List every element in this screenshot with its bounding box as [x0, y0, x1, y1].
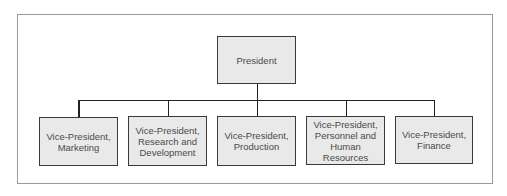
org-node-vp-personnel: Vice-President, Personnel and Human Reso…	[306, 116, 385, 165]
connector-vp-finance	[434, 100, 436, 117]
connector-horizontal-bus	[78, 100, 435, 102]
connector-vp-marketing	[78, 100, 80, 118]
org-node-vp-production: Vice-President, Production	[217, 116, 296, 166]
org-node-vp-finance: Vice-President, Finance	[395, 116, 473, 164]
connector-vp-personnel	[346, 100, 348, 117]
connector-vp-rnd	[168, 100, 170, 117]
org-node-president: President	[217, 36, 296, 84]
org-node-vp-marketing: Vice-President, Marketing	[39, 117, 118, 166]
org-node-vp-rnd: Vice-President, Research and Development	[128, 116, 207, 166]
